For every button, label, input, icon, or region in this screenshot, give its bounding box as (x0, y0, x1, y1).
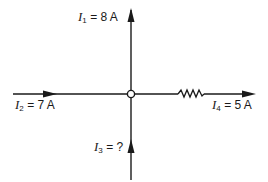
i4-value: = 5 A (224, 98, 252, 112)
i3-subscript: 3 (98, 146, 102, 155)
arrow-i4-icon (242, 91, 256, 98)
arrow-i3-icon (128, 139, 135, 153)
i2-value: = 7 A (27, 98, 55, 112)
i1-value: = 8 A (90, 10, 118, 24)
i4-subscript: 4 (216, 104, 220, 113)
label-i3: I3 = ? (94, 140, 123, 158)
i3-value: = ? (106, 140, 123, 154)
label-i2: I2 = 7 A (15, 98, 55, 116)
arrow-i2-icon (43, 91, 57, 98)
arrow-i1-icon (128, 8, 135, 22)
label-i4: I4 = 5 A (212, 98, 252, 116)
label-i1: I1 = 8 A (78, 10, 118, 28)
i2-subscript: 2 (19, 104, 23, 113)
junction-node-icon (127, 90, 134, 97)
i1-subscript: 1 (82, 16, 86, 25)
kcl-diagram (0, 0, 268, 182)
resistor-icon (178, 90, 204, 97)
